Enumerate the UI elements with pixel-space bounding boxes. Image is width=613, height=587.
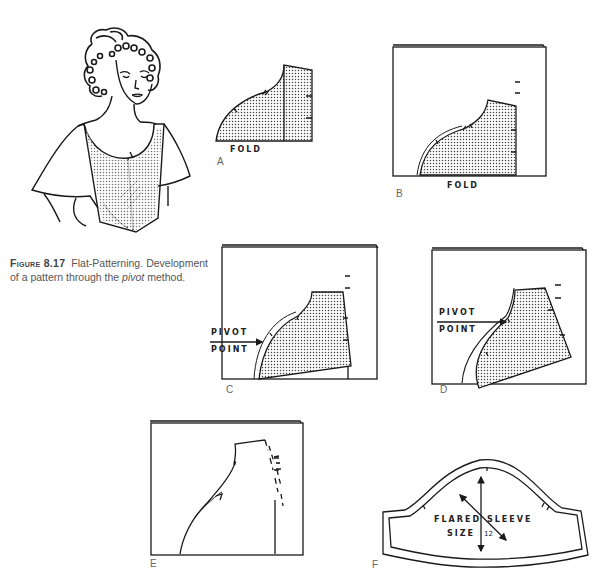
panel-d [432, 248, 586, 388]
panel-f-sleeve-label: SLEEVE [487, 515, 532, 524]
panel-e [150, 421, 303, 555]
diagram-canvas [0, 0, 613, 587]
panel-a-letter: A [217, 156, 224, 167]
figure-number: Figure 8.17 [10, 257, 65, 269]
panel-c-point-label: POINT [211, 345, 249, 354]
panel-e-letter: E [150, 558, 157, 569]
panel-d-letter: D [440, 384, 447, 395]
panel-b [393, 45, 546, 176]
caption-title: Flat-Patterning. [71, 257, 143, 269]
panel-f-letter: F [372, 559, 378, 570]
panel-b-fold-label: FOLD [447, 181, 479, 190]
panel-f-size-number: 12 [484, 530, 493, 538]
panel-c-pivot-label: PIVOT [211, 328, 248, 337]
bodice-dot-fill [86, 128, 162, 230]
panel-c-letter: C [226, 384, 233, 395]
caption-italic: pivot [122, 271, 144, 283]
panel-d-pivot-label: PIVOT [439, 308, 476, 317]
panel-b-letter: B [396, 188, 403, 199]
panel-a [216, 65, 312, 141]
panel-f-flared-label: FLARED [434, 515, 481, 524]
caption-body-2: method. [147, 271, 185, 283]
panel-c [210, 245, 378, 379]
panel-a-fold-label: FOLD [230, 145, 262, 154]
panel-f [383, 460, 588, 568]
panel-f-size-label: SIZE [447, 529, 475, 538]
panel-d-point-label: POINT [439, 325, 477, 334]
figure-caption: Figure 8.17 Flat-Patterning. Development… [10, 256, 208, 284]
